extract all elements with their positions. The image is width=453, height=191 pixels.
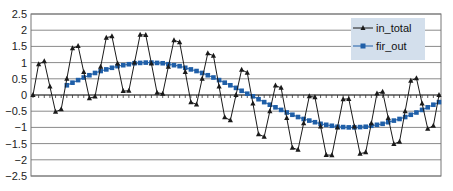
y-tick-label: −1: [14, 121, 27, 133]
square-marker-icon: [341, 125, 346, 130]
triangle-marker-icon: [47, 84, 52, 89]
square-marker-icon: [121, 63, 126, 68]
square-marker-icon: [222, 80, 227, 85]
y-tick-label: 1: [21, 57, 27, 69]
y-tick-label: 0.5: [12, 73, 27, 85]
square-marker-icon: [262, 100, 267, 105]
legend-label-fir-out: fir_out: [376, 40, 407, 52]
triangle-marker-icon: [346, 96, 351, 101]
square-marker-icon: [155, 61, 160, 66]
square-marker-icon: [245, 91, 250, 96]
square-marker-icon: [307, 118, 312, 123]
square-marker-icon: [211, 75, 216, 80]
square-marker-icon: [228, 83, 233, 88]
square-marker-icon: [104, 67, 109, 72]
square-marker-icon: [290, 112, 295, 117]
triangle-marker-icon: [284, 115, 289, 120]
y-tick-label: 2.5: [12, 8, 27, 20]
triangle-marker-icon: [239, 67, 244, 72]
square-marker-icon: [324, 123, 329, 128]
square-marker-icon: [279, 108, 284, 113]
square-marker-icon: [363, 124, 368, 129]
y-tick-label: 1.5: [12, 40, 27, 52]
triangle-marker-icon: [222, 114, 227, 119]
square-marker-icon: [93, 71, 98, 76]
triangle-marker-icon: [92, 94, 97, 99]
triangle-marker-icon: [216, 84, 221, 89]
square-marker-icon: [392, 118, 397, 123]
square-marker-icon: [425, 105, 430, 110]
y-tick-label: 2: [21, 24, 27, 36]
triangle-marker-icon: [81, 69, 86, 74]
line-chart: 2.521.510.50−0.5−1−1.5−2−2.5 in_total fi…: [0, 0, 453, 191]
triangle-marker-icon: [205, 50, 210, 55]
triangle-marker-icon: [419, 100, 424, 105]
y-tick-label: −2.5: [5, 170, 27, 182]
square-marker-icon: [273, 105, 278, 110]
square-marker-icon: [431, 102, 436, 107]
triangle-marker-icon: [59, 106, 64, 111]
square-marker-icon: [206, 73, 211, 78]
triangle-marker-icon: [138, 32, 143, 37]
triangle-marker-icon: [307, 93, 312, 98]
triangle-marker-icon: [273, 83, 278, 88]
triangle-marker-icon: [154, 90, 159, 95]
square-marker-icon: [110, 65, 115, 70]
triangle-marker-icon: [256, 131, 261, 136]
square-marker-icon: [76, 78, 81, 83]
triangle-marker-icon: [431, 123, 436, 128]
triangle-marker-icon: [109, 33, 114, 38]
triangle-marker-icon: [171, 37, 176, 42]
triangle-marker-icon: [126, 88, 131, 93]
legend: in_total fir_out: [351, 18, 425, 60]
square-marker-icon: [375, 123, 380, 128]
y-axis: 2.521.510.50−0.5−1−1.5−2−2.5: [5, 8, 27, 182]
square-marker-icon: [189, 67, 194, 72]
y-tick-label: −0.5: [5, 105, 27, 117]
triangle-marker-icon: [386, 115, 391, 120]
square-marker-icon: [346, 125, 351, 130]
square-marker-icon: [256, 97, 261, 102]
y-tick-label: 0: [21, 89, 27, 101]
triangle-marker-icon: [324, 152, 329, 157]
triangle-marker-icon: [76, 43, 81, 48]
square-marker-icon: [177, 64, 182, 69]
square-marker-icon: [143, 60, 148, 65]
square-marker-icon: [296, 115, 301, 120]
square-marker-icon: [70, 80, 75, 85]
square-marker-icon: [172, 63, 177, 68]
triangle-marker-icon: [98, 64, 103, 69]
legend-label-in-total: in_total: [376, 22, 411, 34]
square-marker-icon: [397, 117, 402, 122]
y-tick-label: −1.5: [5, 138, 27, 150]
triangle-marker-icon: [42, 58, 47, 63]
triangle-marker-icon: [414, 75, 419, 80]
square-marker-icon: [127, 62, 132, 67]
square-marker-icon: [194, 69, 199, 74]
square-marker-icon: [87, 73, 92, 78]
triangle-marker-icon: [188, 99, 193, 104]
triangle-marker-icon: [397, 139, 402, 144]
square-marker-icon: [160, 61, 165, 66]
square-marker-icon: [358, 125, 363, 130]
square-marker-icon: [409, 112, 414, 117]
square-marker-icon: [239, 88, 244, 93]
square-marker-icon: [380, 122, 385, 127]
triangle-marker-icon: [363, 149, 368, 154]
triangle-marker-icon: [290, 145, 295, 150]
square-marker-icon: [138, 61, 143, 66]
square-marker-icon: [313, 120, 318, 125]
y-tick-label: −2: [14, 154, 27, 166]
square-marker-icon: [414, 110, 419, 115]
triangle-marker-icon: [380, 89, 385, 94]
square-marker-icon: [330, 123, 335, 128]
square-marker-icon: [361, 44, 366, 49]
triangle-marker-icon: [250, 100, 255, 105]
triangle-marker-icon: [369, 120, 374, 125]
